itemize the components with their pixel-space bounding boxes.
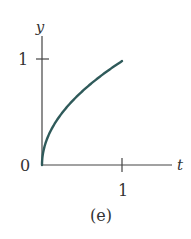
y-axis-label: y	[35, 18, 45, 36]
x-axis-label: t	[177, 156, 184, 174]
data-curve	[42, 61, 122, 165]
y-tick-label-1: 1	[18, 50, 28, 69]
x-tick-label-1: 1	[118, 181, 128, 200]
figure-caption: (e)	[90, 206, 112, 225]
chart: y t 1 0 1 (e)	[0, 0, 191, 239]
y-tick-label-0: 0	[20, 156, 30, 175]
